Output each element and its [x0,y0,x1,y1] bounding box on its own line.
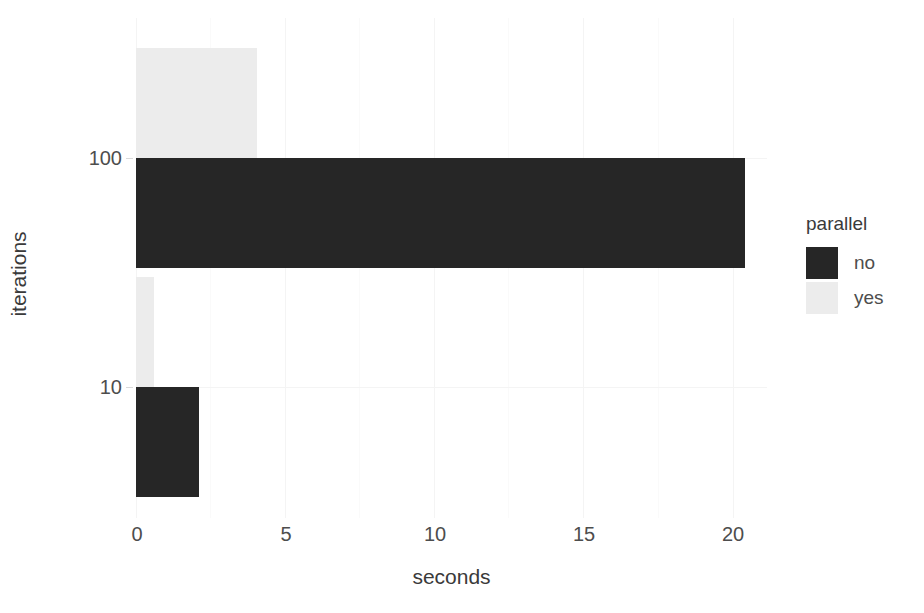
gridline-x-minor-7_5 [359,18,360,518]
gridline-x-15 [583,18,584,518]
y-tick-label-100: 100 [89,148,122,168]
x-tick-label-10: 10 [424,524,446,544]
y-tick-mark-100 [126,158,133,159]
bar-100-no[interactable] [136,158,745,268]
x-tick-label-0: 0 [131,524,142,544]
bar-100-yes[interactable] [136,48,257,158]
legend-label-yes: yes [854,288,884,307]
x-tick-label-15: 15 [573,524,595,544]
gridline-x-20 [733,18,734,518]
y-tick-mark-10 [126,387,133,388]
legend-title: parallel [806,214,918,233]
legend-swatch-no [806,247,838,279]
bar-10-yes[interactable] [136,277,154,387]
gridline-y-10 [136,387,767,388]
legend-label-no: no [854,253,875,272]
bar-10-no[interactable] [136,387,199,497]
y-tick-label-10: 10 [100,377,122,397]
y-axis-title: iterations [7,194,31,354]
plot-panel [136,18,767,518]
x-axis-title: seconds [136,565,767,589]
gridline-x-minor-12_5 [508,18,509,518]
gridline-x-10 [434,18,435,518]
gridline-x-5 [285,18,286,518]
legend-item-yes[interactable]: yes [806,280,918,315]
x-tick-label-20: 20 [722,524,744,544]
chart-container: 100 10 iterations 0 5 10 15 20 seconds p… [0,0,924,613]
gridline-x-minor-17_5 [658,18,659,518]
legend-item-no[interactable]: no [806,245,918,280]
legend: parallel no yes [806,214,918,315]
x-tick-label-5: 5 [280,524,291,544]
legend-swatch-yes [806,282,838,314]
